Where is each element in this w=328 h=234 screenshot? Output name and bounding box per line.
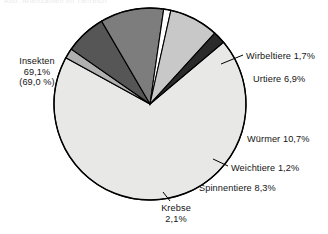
- slice-label-insekten: Insekten 69,1% (69,0 %): [4, 56, 70, 88]
- slice-label-spinnentiere: Spinnentiere 8,3%: [199, 183, 276, 194]
- slice-label-insekten-name: Insekten: [4, 56, 70, 67]
- slice-label-wuermer: Würmer 10,7%: [247, 134, 309, 145]
- slice-label-wirbeltiere: Wirbeltiere 1,7%: [246, 51, 315, 62]
- slice-label-krebse-value: 2,1%: [148, 214, 204, 225]
- slice-label-urtiere: Urtiere 6,9%: [253, 74, 305, 85]
- slice-label-krebse: Krebse 2,1%: [148, 203, 204, 224]
- slice-label-insekten-secondary: (69,0 %): [4, 77, 70, 88]
- pie-chart-svg: [0, 0, 328, 234]
- slice-label-insekten-value: 69,1%: [4, 67, 70, 78]
- slice-label-krebse-name: Krebse: [148, 203, 204, 214]
- pie-slices: [54, 8, 246, 200]
- pie-chart-figure: Abb. Artenzahlen im Tierreich Insekten 6…: [0, 0, 328, 234]
- slice-label-weichtiere: Weichtiere 1,2%: [231, 163, 299, 174]
